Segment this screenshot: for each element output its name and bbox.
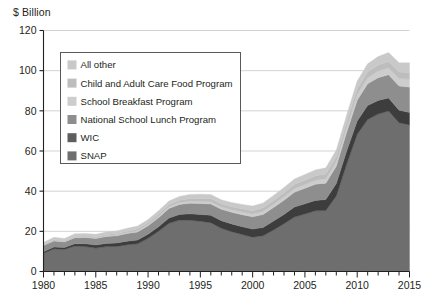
y-axis-tick-label: 120: [19, 24, 37, 36]
legend-swatch: [68, 97, 77, 106]
x-axis-tick-label: 2000: [241, 279, 265, 291]
x-axis-tick-label: 2015: [398, 279, 422, 291]
x-axis-tick-label: 1980: [32, 279, 56, 291]
legend-label: School Breakfast Program: [81, 96, 193, 107]
y-axis-tick-label: 0: [31, 265, 37, 277]
legend-label: Child and Adult Care Food Program: [81, 78, 233, 89]
y-axis-ticks: [40, 31, 44, 272]
legend-label: WIC: [81, 132, 100, 143]
chart-plot-svg: 020406080100120 198019851990199520002005…: [0, 0, 436, 293]
x-axis-tick-label: 1985: [84, 279, 108, 291]
x-axis-tick-label: 2005: [293, 279, 317, 291]
legend-label: National School Lunch Program: [81, 114, 216, 125]
legend-swatch: [68, 79, 77, 88]
y-axis-tick-label: 80: [25, 105, 37, 117]
x-axis-tick-label: 1990: [136, 279, 160, 291]
y-axis-tick-labels: 020406080100120: [19, 24, 37, 277]
legend-swatch: [68, 115, 77, 124]
legend-label: SNAP: [81, 150, 107, 161]
y-axis-tick-label: 20: [25, 225, 37, 237]
legend-swatch: [68, 60, 77, 69]
x-axis-tick-labels: 19801985199019952000200520102015: [32, 279, 422, 291]
chart-legend: All otherChild and Adult Care Food Progr…: [61, 53, 241, 164]
legend-swatch: [68, 133, 77, 142]
x-axis-tick-label: 2010: [346, 279, 370, 291]
y-axis-tick-label: 60: [25, 145, 37, 157]
y-axis-tick-label: 40: [25, 185, 37, 197]
legend-label: All other: [81, 59, 117, 70]
y-axis-tick-label: 100: [19, 64, 37, 76]
x-axis-ticks: [44, 272, 410, 278]
x-axis-tick-label: 1995: [189, 279, 213, 291]
stacked-area-chart: $ Billion 020406080100120 19801985199019…: [0, 0, 436, 293]
legend-swatch: [68, 151, 77, 160]
